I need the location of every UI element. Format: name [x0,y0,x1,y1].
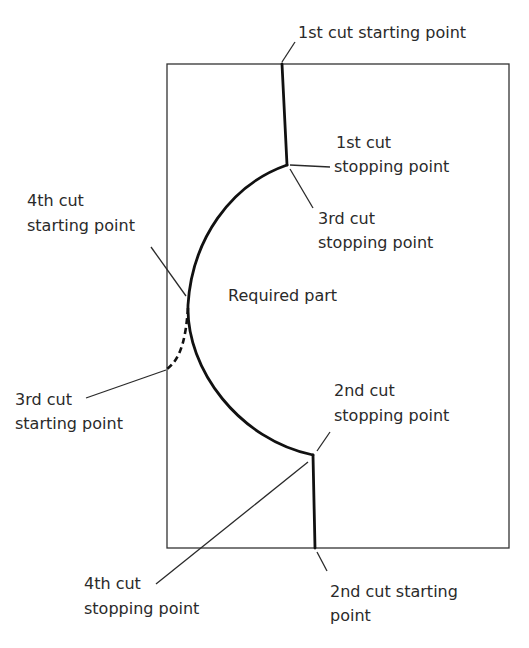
label-cut3-stop-line1: 3rd cut [318,209,375,228]
label-cut4-stop-line2: stopping point [84,599,199,618]
leader-cut1-start [282,42,295,62]
second-cut-line [313,455,315,548]
relief-cut-dashed [167,308,188,369]
label-cut1-stop-line2: stopping point [334,157,449,176]
label-cut3-start-line1: 3rd cut [15,390,72,409]
label-cut4-start-line2: starting point [27,216,135,235]
label-cut2-start-line2: point [330,606,371,625]
leader-cut1-stop [290,165,330,167]
label-cut1-stop-line1: 1st cut [336,133,391,152]
label-cut4-stop-line1: 4th cut [84,574,141,593]
leader-cut2-stop [317,432,330,451]
leader-cut2-start [317,552,327,571]
leader-cut3-stop [290,169,313,208]
label-cut1-start: 1st cut starting point [298,23,466,42]
cutting-diagram: 1st cut starting point 1st cut stopping … [0,0,529,648]
label-cut3-stop-line2: stopping point [318,233,433,252]
label-cut4-start-line1: 4th cut [27,191,84,210]
label-cut3-start-line2: starting point [15,414,123,433]
label-cut2-stop-line1: 2nd cut [334,381,395,400]
label-required-part: Required part [228,286,337,305]
label-cut2-start-line1: 2nd cut starting [330,582,458,601]
label-cut2-stop-line2: stopping point [334,406,449,425]
leader-cut3-start [86,370,166,398]
first-cut-line [282,64,287,165]
leader-cut4-start [151,247,186,296]
leader-cut4-stop [156,462,308,584]
required-part-arc [188,165,313,455]
